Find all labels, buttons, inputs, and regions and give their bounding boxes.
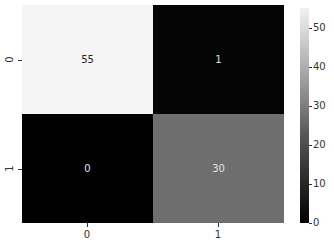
colorbar-tick-label: 0 [313, 217, 319, 228]
tick-mark [309, 184, 312, 185]
colorbar-tick-20: 20 [309, 139, 326, 151]
cell-value: 1 [215, 54, 221, 65]
confusion-matrix-heatmap: 55 1 0 30 [22, 5, 284, 223]
tick-mark [18, 60, 22, 61]
colorbar-tick-40: 40 [309, 61, 326, 73]
y-tick-label: 1 [4, 165, 15, 171]
tick-mark [309, 145, 312, 146]
colorbar-tick-50: 50 [309, 22, 326, 34]
tick-mark [309, 223, 312, 224]
x-tick-label: 1 [208, 229, 228, 240]
cell-0-1: 1 [153, 5, 284, 114]
tick-mark [309, 67, 312, 68]
cell-1-1: 30 [153, 114, 284, 223]
x-tick-1: 1 [208, 223, 228, 243]
cell-value: 30 [212, 163, 225, 174]
cell-value: 55 [81, 54, 94, 65]
colorbar-tick-label: 50 [313, 22, 326, 33]
x-tick-0: 0 [77, 223, 97, 243]
cell-1-0: 0 [22, 114, 153, 223]
colorbar-tick-label: 40 [313, 61, 326, 72]
colorbar-tick-label: 10 [313, 178, 326, 189]
tick-mark [309, 28, 312, 29]
cell-0-0: 55 [22, 5, 153, 114]
tick-mark [18, 169, 22, 170]
colorbar-tick-10: 10 [309, 178, 326, 190]
colorbar [300, 8, 309, 223]
y-tick-label: 0 [4, 56, 15, 62]
tick-mark [218, 223, 219, 227]
colorbar-tick-label: 30 [313, 100, 326, 111]
colorbar-tick-label: 20 [313, 139, 326, 150]
colorbar-tick-0: 0 [309, 217, 319, 229]
y-tick-1: 1 [0, 163, 22, 175]
tick-mark [87, 223, 88, 227]
colorbar-tick-30: 30 [309, 100, 326, 112]
y-tick-0: 0 [0, 54, 22, 66]
cell-value: 0 [84, 163, 90, 174]
x-tick-label: 0 [77, 229, 97, 240]
tick-mark [309, 106, 312, 107]
